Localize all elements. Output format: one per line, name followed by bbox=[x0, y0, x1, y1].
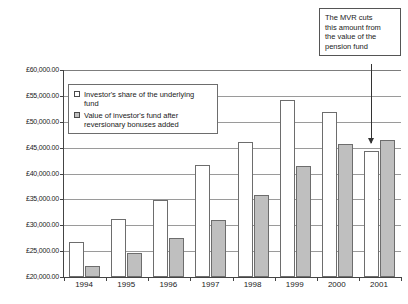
mvr-annotation-callout: The MVR cuts this amount from the value … bbox=[319, 8, 401, 56]
x-axis-label-1995: 1995 bbox=[106, 281, 146, 289]
bar-1998-series-2 bbox=[254, 195, 269, 277]
mvr-annotation-leader-line bbox=[371, 64, 372, 143]
bar-chart: £60,000.00£55,000.00£50,000.00£45,000.00… bbox=[0, 0, 408, 304]
x-axis-label-1994: 1994 bbox=[64, 281, 104, 289]
bar-2001-series-1 bbox=[364, 151, 379, 277]
bar-2000-series-1 bbox=[322, 112, 337, 277]
bar-2001-series-2 bbox=[380, 140, 395, 277]
bar-2000-series-2 bbox=[338, 144, 353, 277]
bar-group bbox=[317, 70, 359, 277]
y-axis-label: £20,000.00 bbox=[26, 273, 59, 280]
bar-1997-series-1 bbox=[195, 165, 210, 277]
bar-1995-series-1 bbox=[111, 219, 126, 277]
legend-item-investor-share: Investor's share of the underlying fund bbox=[74, 90, 213, 108]
x-axis-label-2000: 2000 bbox=[317, 281, 357, 289]
chart-legend: Investor's share of the underlying fund … bbox=[68, 84, 218, 134]
bar-group bbox=[275, 70, 317, 277]
y-axis-label: £35,000.00 bbox=[26, 195, 59, 202]
x-axis-label-1997: 1997 bbox=[190, 281, 230, 289]
legend-swatch-light-icon bbox=[74, 91, 80, 97]
x-axis-label-1999: 1999 bbox=[275, 281, 315, 289]
legend-label-investor-share: Investor's share of the underlying fund bbox=[84, 90, 194, 108]
y-axis-label: £55,000.00 bbox=[26, 92, 59, 99]
legend-item-fund-value: Value of investor's fund after reversion… bbox=[74, 111, 213, 129]
bar-1997-series-2 bbox=[211, 220, 226, 277]
legend-label-fund-value: Value of investor's fund after reversion… bbox=[84, 111, 179, 129]
y-axis-label: £45,000.00 bbox=[26, 144, 59, 151]
y-axis-label: £40,000.00 bbox=[26, 170, 59, 177]
bar-1996-series-2 bbox=[169, 238, 184, 277]
x-axis-label-1998: 1998 bbox=[233, 281, 273, 289]
legend-swatch-shaded-icon bbox=[74, 112, 80, 118]
bar-1995-series-2 bbox=[127, 253, 142, 277]
bar-1998-series-1 bbox=[238, 142, 253, 277]
mvr-annotation-text: The MVR cuts this amount from the value … bbox=[325, 13, 395, 51]
y-axis-label: £50,000.00 bbox=[26, 118, 59, 125]
bar-1994-series-1 bbox=[69, 242, 84, 277]
x-axis-tick bbox=[401, 277, 402, 281]
bar-1994-series-2 bbox=[85, 266, 100, 277]
bar-group bbox=[359, 70, 401, 277]
y-axis-label: £30,000.00 bbox=[26, 221, 59, 228]
bar-group bbox=[233, 70, 275, 277]
x-axis-label-2001: 2001 bbox=[359, 281, 399, 289]
y-axis-label: £60,000.00 bbox=[26, 66, 59, 73]
x-axis-label-1996: 1996 bbox=[148, 281, 188, 289]
bar-1996-series-1 bbox=[153, 200, 168, 277]
y-axis-label: £25,000.00 bbox=[26, 247, 59, 254]
bar-1999-series-2 bbox=[296, 166, 311, 277]
bar-1999-series-1 bbox=[280, 100, 295, 278]
mvr-annotation-arrow-icon bbox=[368, 138, 374, 144]
